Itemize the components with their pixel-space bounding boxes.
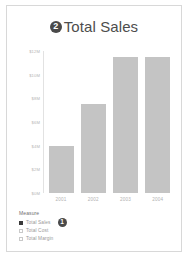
bar-series [45,51,174,193]
bar-2003[interactable] [113,57,138,193]
y-axis-line [43,51,44,193]
legend-title: Measure [19,210,169,216]
y-tick-label: $8M [32,96,40,101]
bar-2001[interactable] [49,146,74,193]
legend-label: Total Margin [26,236,53,241]
checkbox-checked-icon[interactable] [19,221,23,225]
x-tick-label-2001: 2001 [49,193,74,206]
checkbox-unchecked-icon[interactable] [19,229,23,233]
chart-plot-area: $12M $10M $8M $6M $4M $2M $0M 2001 2002 … [18,51,176,206]
x-tick-label-2004: 2004 [145,193,170,206]
step-badge-1: 1 [58,218,67,227]
y-tick-label: $10M [29,72,40,77]
y-axis: $12M $10M $8M $6M $4M $2M $0M [18,51,42,193]
page-title: Total Sales [64,18,138,35]
bar-2002[interactable] [81,104,106,193]
legend: Measure Total Sales 1 Total Cost Total M… [19,210,169,243]
bar-slot [81,51,106,193]
bar-slot [113,51,138,193]
y-tick-label: $0M [32,191,40,196]
x-tick-label-2002: 2002 [81,193,106,206]
y-tick-label: $4M [32,143,40,148]
chart-title-row: 2 Total Sales [7,18,181,35]
x-tick-label-2003: 2003 [113,193,138,206]
bar-slot [145,51,170,193]
checkbox-unchecked-icon[interactable] [19,237,23,241]
x-axis: 2001 2002 2003 2004 [45,193,174,206]
step-badge-2: 2 [50,21,62,33]
y-tick-label: $6M [32,120,40,125]
legend-item-total-margin[interactable]: Total Margin [19,235,169,242]
y-tick-label: $12M [29,49,40,54]
bar-slot [49,51,74,193]
legend-item-total-sales[interactable]: Total Sales 1 [19,219,169,226]
y-tick-label: $2M [32,167,40,172]
legend-label: Total Sales [26,220,51,225]
bar-2004[interactable] [145,57,170,193]
chart-card: 2 Total Sales $12M $10M $8M $6M $4M $2M … [6,5,182,252]
legend-label: Total Cost [26,228,48,233]
legend-item-total-cost[interactable]: Total Cost [19,227,169,234]
